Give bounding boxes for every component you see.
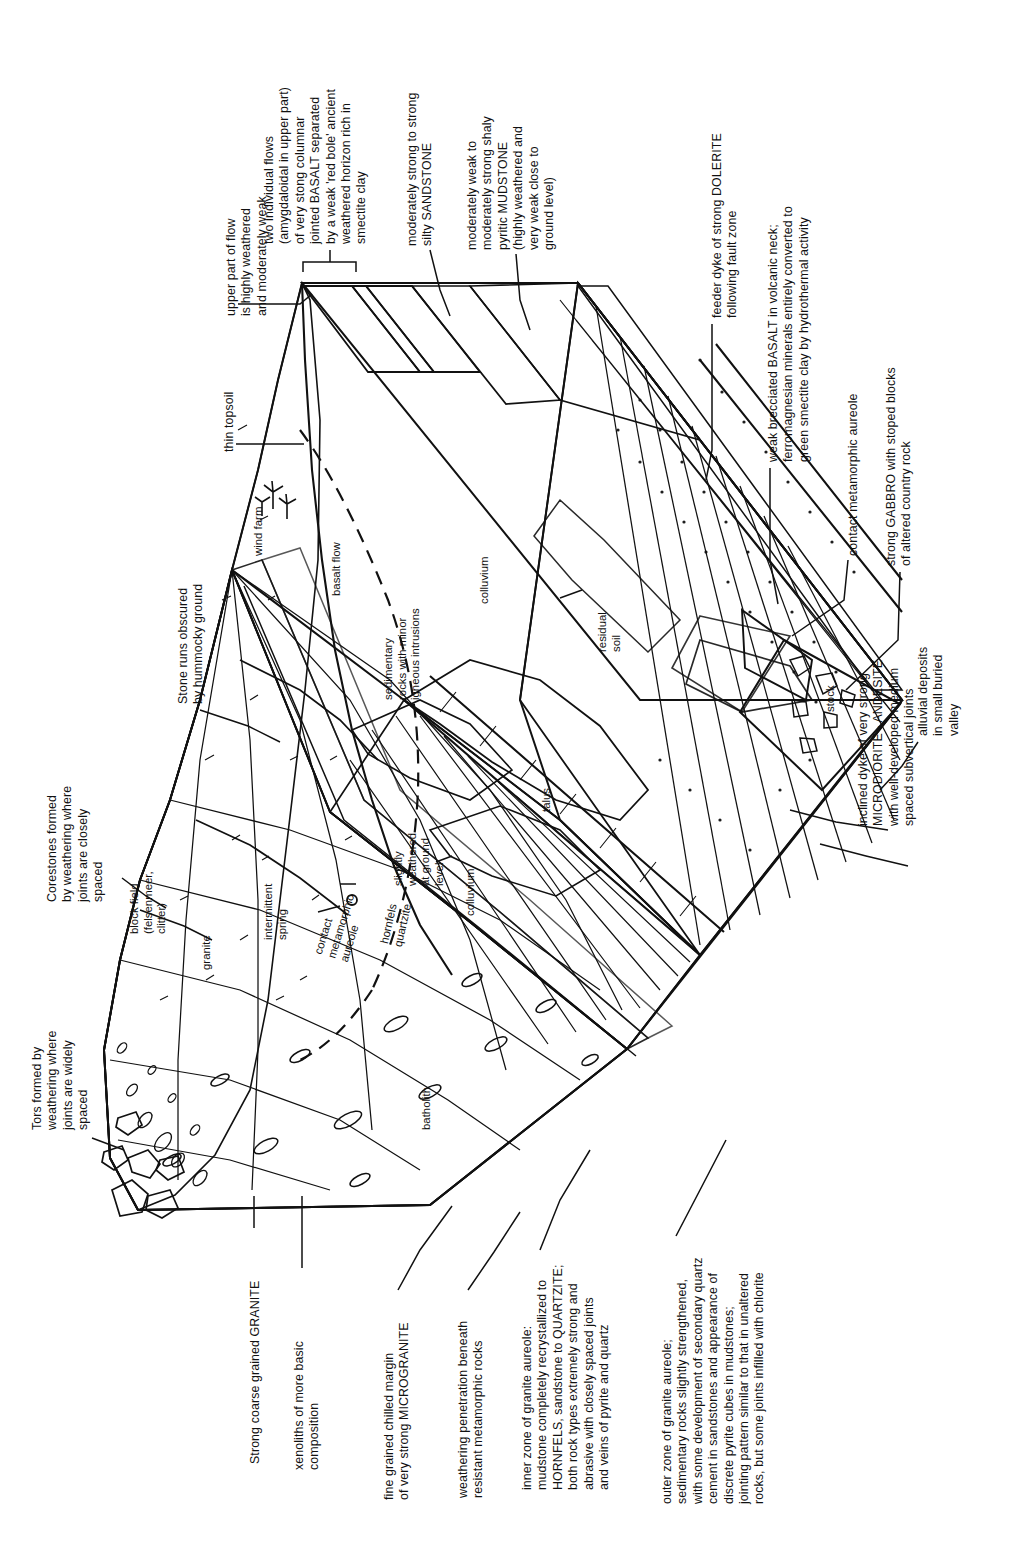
interior-label-wind-farm: wind farm (252, 507, 266, 556)
geological-block-diagram-page: upper part of flow is highly weathered a… (0, 0, 1015, 1554)
interior-label-granite: granite (200, 935, 214, 970)
interior-label-residual-soil: residual soil (596, 612, 623, 652)
callout-inner-aureole: inner zone of granite aureole: mudstone … (520, 1265, 612, 1490)
interior-label-colluvium-upper: colluvium (478, 557, 492, 604)
interior-label-batholith: batholith (420, 1087, 434, 1130)
callout-xenoliths: xenoliths of more basic composition (292, 1341, 323, 1470)
interior-label-intermittent-spring: intermittent spring (262, 884, 289, 940)
interior-label-colluvium-mid: colluvium (464, 869, 478, 916)
interior-label-hornfels-quartzite: hornfels quartzite (378, 899, 414, 948)
callout-tors: Tors formed by weathering where joints a… (30, 1031, 92, 1130)
callout-corestones: Corestones formed by weathering where jo… (45, 786, 107, 902)
callout-microgranite: fine grained chilled margin of very stro… (382, 1322, 413, 1500)
callout-weathering-penetration: weathering penetration beneath resistant… (456, 1321, 487, 1498)
callout-contact-aureole: contact metamorphic aureole (846, 394, 861, 556)
interior-label-stock: stock (824, 685, 838, 712)
interior-label-sedimentary-rocks: sedimentary rocks with minor igneous int… (382, 608, 423, 700)
interior-label-slightly-weathered: slightly weathered at ground level (392, 833, 446, 886)
callout-two-individual-flows: two individual flows (amygdaloidal in up… (262, 87, 370, 244)
interior-label-talus: talus (540, 788, 554, 812)
callout-brecciated-basalt: weak brecciated BASALT in volcanic neck;… (766, 206, 812, 462)
callout-thin-topsoil: thin topsoil (222, 392, 237, 452)
callout-alluvial-deposits: alluvial deposits in small buried valley (916, 647, 962, 736)
interior-label-block-field: block field (felsenmeer, clitter) (128, 871, 169, 934)
interior-label-contact-metamorphic-aureole: contact metamorphic aureole (312, 889, 370, 964)
callout-sandstone: moderately strong to strong silty SANDST… (405, 92, 436, 246)
callout-gabbro: strong GABBRO with stoped blocks of alte… (884, 367, 915, 566)
callout-strong-granite: Strong coarse grained GRANITE (248, 1281, 263, 1464)
callout-outer-aureole: outer zone of granite aureole; sedimenta… (660, 1257, 768, 1504)
callout-stone-runs: Stone runs obscured by hummocky ground (176, 584, 207, 704)
callout-dolerite: feeder dyke of strong DOLERITE following… (710, 133, 741, 318)
interior-label-basalt-flow: basalt flow (330, 542, 344, 596)
callout-microdiorite: inclined dyke of very strong MICRODIORIT… (856, 660, 918, 826)
callout-mudstone: moderately weak to moderately strong sha… (465, 116, 557, 250)
